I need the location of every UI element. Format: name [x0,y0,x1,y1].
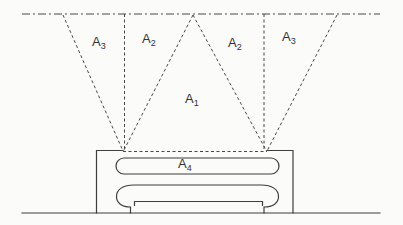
label-a2-left: A2 [142,31,156,48]
label-a2-right: A2 [228,35,242,52]
view-factor-rays [63,14,337,151]
label-a3-left: A3 [92,34,106,51]
radiator-lower-channel-inner [135,202,263,206]
label-a2-right-base: A [228,35,237,50]
label-a4-sub: 4 [187,163,192,173]
label-a3-left-sub: 3 [101,41,106,51]
label-a2-left-sub: 2 [151,38,156,48]
radiator-shell-right [267,151,293,214]
label-a1: A1 [185,91,199,108]
label-a2-right-sub: 2 [237,42,242,52]
radiator-lower-channel-outer [117,185,279,213]
label-a3-left-base: A [92,34,101,49]
ray-apex-left [124,15,194,151]
radiator-view-factor-diagram: A3 A2 A1 A2 A3 A4 [0,0,403,225]
label-a1-sub: 1 [194,98,199,108]
label-a3-right-sub: 3 [291,36,296,46]
label-a3-right-base: A [282,29,291,44]
radiator-body [97,151,294,214]
label-a3-right: A3 [282,29,296,46]
figure-canvas: A3 A2 A1 A2 A3 A4 [0,0,403,225]
radiator-upper-channel [116,158,279,174]
label-a2-left-base: A [142,31,151,46]
ray-right-outer [267,15,337,151]
label-a1-base: A [185,91,194,106]
area-labels: A3 A2 A1 A2 A3 A4 [92,29,296,173]
label-a4-base: A [178,156,187,171]
